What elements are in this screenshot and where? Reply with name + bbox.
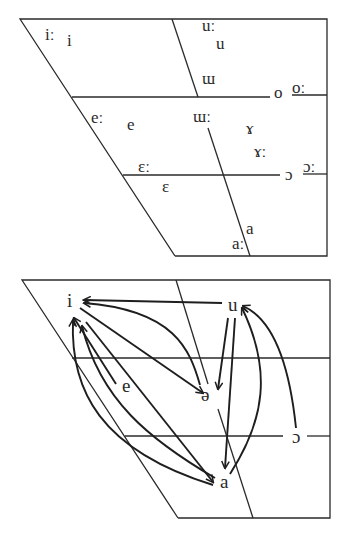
- arrow-open-o-to-u: [243, 306, 296, 428]
- top-vowel-chart: iːiuːuɯooːeːeɯːɤɤːεːɔɔːεaaː: [20, 16, 327, 256]
- bottom-vowel-symbol: i: [67, 290, 72, 311]
- vowel-chart-diagram: iːiuːuɯooːeːeɯːɤɤːεːɔɔːεaaː iueəɔa: [0, 0, 348, 538]
- top-vowel-symbol: e: [127, 115, 135, 134]
- top-vowel-symbol: a: [246, 219, 254, 238]
- top-vowel-symbol: uː: [202, 16, 215, 35]
- top-vowel-symbol: ɔː: [303, 157, 315, 176]
- top-vowel-symbol: iː: [45, 25, 54, 44]
- top-vowel-symbol: ɤː: [254, 142, 266, 161]
- top-vowel-symbol: ɯ: [202, 69, 215, 88]
- top-vowel-symbol: ɔ: [285, 165, 293, 184]
- bottom-central-line-upper: [176, 280, 208, 384]
- bottom-vowel-shift-chart: iueəɔa: [22, 280, 330, 518]
- arrow-i-to-schwa: [80, 308, 203, 393]
- top-vowel-symbol: oː: [292, 78, 305, 97]
- bottom-trapezoid-frame: [22, 280, 330, 518]
- arrow-a-to-i-outer: [73, 320, 213, 485]
- top-vowel-symbol: eː: [91, 108, 103, 127]
- top-vowel-symbol: o: [274, 83, 283, 102]
- bottom-vowel-symbol: u: [228, 294, 238, 315]
- top-vowel-symbol: u: [216, 34, 225, 53]
- bottom-vowel-symbol: a: [220, 471, 229, 492]
- arrow-schwa-to-i: [84, 303, 200, 385]
- bottom-vowel-symbol: ɔ: [292, 426, 300, 447]
- bottom-vowel-symbol: ə: [201, 384, 209, 405]
- top-vowel-symbol: i: [67, 31, 72, 50]
- top-vowel-symbol: ɤ: [246, 119, 254, 138]
- bottom-vowel-symbol: e: [122, 375, 130, 396]
- top-vowel-symbol: ε: [162, 177, 169, 196]
- top-vowel-symbol: ɯː: [193, 107, 211, 126]
- top-vowel-symbol: aː: [232, 234, 244, 253]
- arrow-u-to-schwa: [218, 318, 228, 389]
- top-trapezoid-frame: [20, 19, 327, 256]
- top-vowel-symbol: εː: [138, 157, 150, 176]
- arrow-u-to-i: [84, 300, 222, 303]
- top-central-line-upper: [172, 19, 198, 97]
